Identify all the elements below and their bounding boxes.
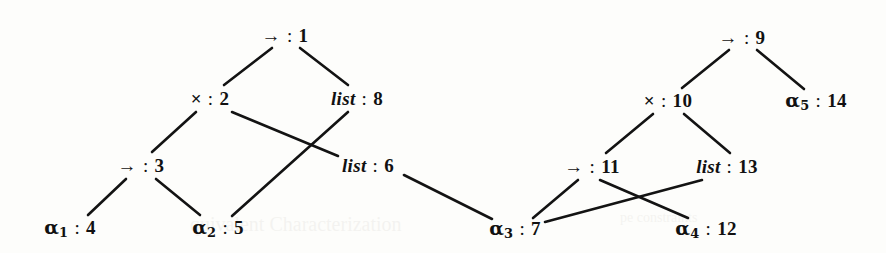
node-index-number: 12 [717,218,737,239]
node-index-number: 14 [827,90,847,111]
node-arrow-constructor-icon: → [564,156,583,177]
node-subscript: 1 [59,225,68,240]
node-separator: : [281,25,299,46]
node-index-number: 2 [220,88,230,109]
node-type-variable-alpha: α1 [44,216,68,238]
node-type-variable-alpha: α2 [192,216,216,238]
tree-edge [300,48,348,85]
node-index-number: 3 [155,155,165,176]
node-index-number: 11 [601,156,620,177]
tree-node-n8: list : 8 [331,89,383,108]
node-separator: : [584,156,602,177]
node-separator: : [699,218,717,239]
tree-node-n9: → : 9 [719,28,766,47]
tree-edge [224,48,272,85]
node-separator: : [137,155,155,176]
node-subscript: 4 [690,226,699,241]
node-arrow-constructor-icon: → [262,25,281,46]
tree-edge [757,50,804,89]
node-arrow-constructor-icon: → [118,155,137,176]
tree-node-n6: list : 6 [342,156,394,175]
node-keyword-list: list [342,155,366,176]
node-keyword-list: list [331,88,355,109]
tree-edge [152,112,196,152]
node-separator: : [68,217,86,238]
type-derivation-figure: quivalent Characterizationpe constraints… [0,0,886,253]
node-separator: : [202,88,220,109]
node-type-variable-alpha: α3 [489,217,513,239]
tree-edge [156,179,200,215]
tree-node-n7: α3 : 7 [489,219,541,242]
node-index-number: 4 [86,217,96,238]
tree-node-n12: α4 : 12 [675,219,737,242]
node-subscript: 3 [504,226,513,241]
tree-edge [684,114,730,153]
tree-node-n2: × : 2 [191,89,230,108]
node-index-number: 5 [234,217,244,238]
tree-node-n14: α5 : 14 [785,91,847,114]
tree-edge [533,180,578,218]
tree-edge [682,50,729,88]
node-arrow-constructor-icon: → [719,27,738,48]
node-index-number: 7 [531,218,541,239]
node-times-constructor-icon: × [191,88,202,109]
node-separator: : [721,156,739,177]
node-subscript: 5 [800,98,809,113]
node-subscript: 2 [207,225,216,240]
node-keyword-list: list [696,156,720,177]
edge-group [88,48,804,222]
node-separator: : [809,90,827,111]
tree-node-n1: → : 1 [262,26,309,45]
node-type-variable-alpha: α5 [785,89,809,111]
node-separator: : [355,88,373,109]
node-index-number: 6 [384,155,394,176]
node-index-number: 10 [673,90,693,111]
node-type-variable-alpha: α4 [675,217,699,239]
tree-edge [88,179,126,215]
node-times-constructor-icon: × [644,90,655,111]
tree-node-n3: → : 3 [118,156,165,175]
node-index-number: 1 [299,25,309,46]
tree-node-n13: list : 13 [696,157,758,176]
tree-node-n4: α1 : 4 [44,218,96,241]
tree-edge [404,175,492,219]
node-separator: : [513,218,531,239]
tree-node-n10: × : 10 [644,91,692,110]
node-separator: : [738,27,756,48]
node-index-number: 9 [756,27,766,48]
tree-edge [600,180,688,218]
node-separator: : [216,217,234,238]
node-index-number: 8 [373,88,383,109]
tree-edge [232,112,348,216]
tree-edge [606,114,653,153]
node-index-number: 13 [738,156,758,177]
node-separator: : [366,155,384,176]
node-separator: : [655,90,673,111]
tree-node-n11: → : 11 [564,157,620,176]
tree-node-n5: α2 : 5 [192,218,244,241]
